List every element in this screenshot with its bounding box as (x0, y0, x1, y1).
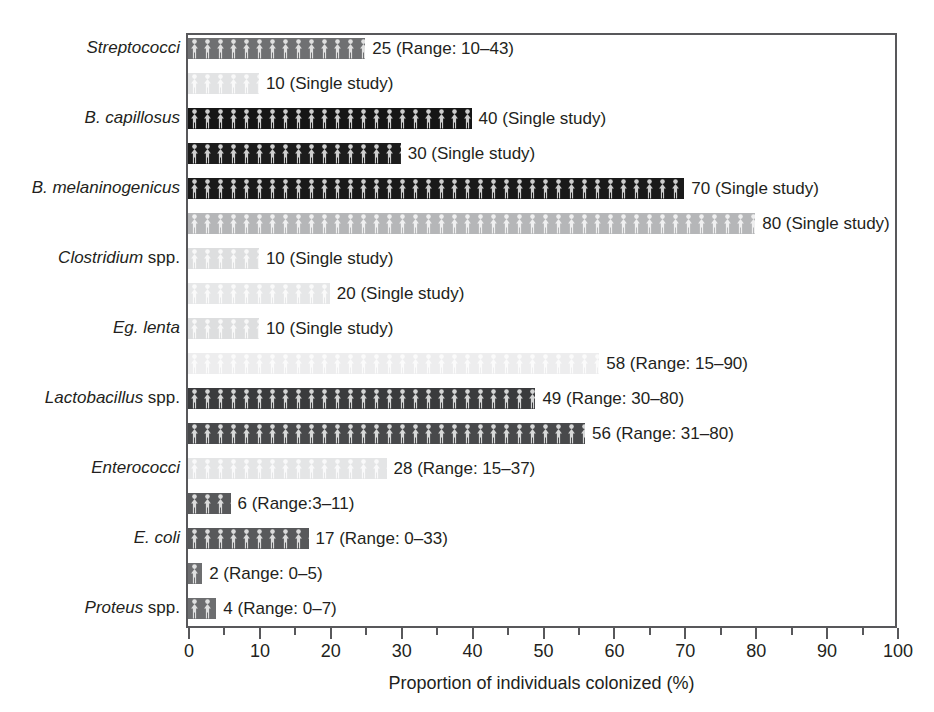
bar-value-label: 20 (Single study) (330, 283, 465, 304)
bar-pattern-icon (188, 178, 684, 199)
bar-row: 20 (Single study) (188, 283, 464, 304)
category-label: Clostridium spp. (0, 249, 180, 266)
x-axis-tick-label: 40 (463, 641, 483, 662)
bar-value-label: 4 (Range: 0–7) (216, 598, 336, 619)
bar-value-label: 56 (Range: 31–80) (585, 423, 734, 444)
x-axis-tick-label: 90 (817, 641, 837, 662)
x-axis-tick-label: 0 (184, 641, 194, 662)
category-label-genus: Proteus (85, 598, 144, 617)
x-axis-major-tick (401, 628, 403, 639)
x-axis-minor-tick (223, 628, 225, 635)
bar-value-label: 2 (Range: 0–5) (202, 563, 322, 584)
bar-row: 28 (Range: 15–37) (188, 458, 535, 479)
x-axis-major-tick (543, 628, 545, 639)
bar-value-label: 10 (Single study) (259, 318, 394, 339)
category-label-genus: B. melaninogenicus (32, 178, 180, 197)
x-axis-tick-label: 100 (883, 641, 913, 662)
x-axis-major-tick (897, 628, 899, 639)
bar-row: 49 (Range: 30–80) (188, 388, 684, 409)
bar-value-label: 25 (Range: 10–43) (365, 38, 514, 59)
category-label-suffix: spp. (143, 598, 180, 617)
bar (188, 318, 259, 339)
x-axis-tick-label: 80 (746, 641, 766, 662)
category-label: E. coli (0, 529, 180, 546)
bar-pattern-icon (188, 283, 330, 304)
bar-pattern-icon (188, 143, 401, 164)
bar (188, 563, 202, 584)
category-label-genus: Enterococci (91, 458, 180, 477)
bar-value-label: 40 (Single study) (472, 108, 607, 129)
bar-pattern-icon (188, 458, 387, 479)
x-axis-tick-label: 60 (604, 641, 624, 662)
category-label-genus: B. capillosus (85, 108, 180, 127)
x-axis-major-tick (330, 628, 332, 639)
category-label: Streptococci (0, 39, 180, 56)
x-axis: 0102030405060708090100 (186, 628, 897, 668)
category-label: Lactobacillus spp. (0, 389, 180, 406)
bar-value-label: 30 (Single study) (401, 143, 536, 164)
category-label-genus: E. coli (134, 528, 180, 547)
bar-pattern-icon (188, 563, 202, 584)
x-axis-major-tick (755, 628, 757, 639)
x-axis-minor-tick (507, 628, 509, 635)
x-axis-minor-tick (862, 628, 864, 635)
bar (188, 493, 231, 514)
chart-figure: StreptococciB. capillosusB. melaninogeni… (0, 0, 934, 712)
bar-pattern-icon (188, 248, 259, 269)
bar-value-label: 49 (Range: 30–80) (535, 388, 684, 409)
x-axis-tick-label: 10 (250, 641, 270, 662)
x-axis-major-tick (826, 628, 828, 639)
bar-row: 10 (Single study) (188, 318, 393, 339)
bar-row: 25 (Range: 10–43) (188, 38, 514, 59)
x-axis-tick-label: 20 (321, 641, 341, 662)
x-axis-minor-tick (436, 628, 438, 635)
bar-row: 70 (Single study) (188, 178, 819, 199)
bar-value-label: 28 (Range: 15–37) (387, 458, 536, 479)
bar (188, 38, 365, 59)
bar-pattern-icon (188, 388, 535, 409)
category-label-genus: Eg. lenta (113, 318, 180, 337)
bar (188, 528, 309, 549)
x-axis-minor-tick (649, 628, 651, 635)
bar (188, 388, 535, 409)
bar-row: 10 (Single study) (188, 248, 393, 269)
bar-pattern-icon (188, 493, 231, 514)
bar-value-label: 80 (Single study) (755, 213, 890, 234)
bar-pattern-icon (188, 108, 472, 129)
bar (188, 73, 259, 94)
x-axis-major-tick (259, 628, 261, 639)
x-axis-major-tick (472, 628, 474, 639)
bar (188, 283, 330, 304)
bar-row: 58 (Range: 15–90) (188, 353, 748, 374)
bar-pattern-icon (188, 353, 599, 374)
bar-row: 4 (Range: 0–7) (188, 598, 337, 619)
bar-value-label: 10 (Single study) (259, 73, 394, 94)
category-label: B. capillosus (0, 109, 180, 126)
x-axis-major-tick (684, 628, 686, 639)
bar-pattern-icon (188, 213, 755, 234)
bar-pattern-icon (188, 528, 309, 549)
bar-value-label: 10 (Single study) (259, 248, 394, 269)
bar-row: 10 (Single study) (188, 73, 393, 94)
bar (188, 248, 259, 269)
x-axis-minor-tick (578, 628, 580, 635)
category-label: Enterococci (0, 459, 180, 476)
bar-pattern-icon (188, 73, 259, 94)
x-axis-tick-label: 30 (392, 641, 412, 662)
category-label: B. melaninogenicus (0, 179, 180, 196)
category-label-column: StreptococciB. capillosusB. melaninogeni… (0, 33, 180, 628)
bar-value-label: 17 (Range: 0–33) (309, 528, 448, 549)
category-label: Proteus spp. (0, 599, 180, 616)
bar-pattern-icon (188, 318, 259, 339)
x-axis-tick-label: 50 (533, 641, 553, 662)
bar-series-container: 25 (Range: 10–43)10 (Single study)40 (Si… (188, 33, 897, 628)
x-axis-minor-tick (365, 628, 367, 635)
bar-row: 2 (Range: 0–5) (188, 563, 323, 584)
bar (188, 143, 401, 164)
bar-row: 80 (Single study) (188, 213, 890, 234)
bar-row: 56 (Range: 31–80) (188, 423, 734, 444)
category-label-genus: Streptococci (86, 38, 180, 57)
x-axis-major-tick (188, 628, 190, 639)
bar (188, 458, 387, 479)
bar (188, 178, 684, 199)
